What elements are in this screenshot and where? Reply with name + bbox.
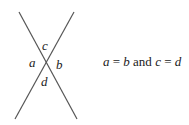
angle-label-d: d — [41, 74, 48, 89]
angle-label-c: c — [42, 38, 48, 53]
eq-equals-1: = — [110, 54, 124, 69]
eq-and: and — [130, 54, 155, 69]
eq-var-d: d — [175, 54, 182, 69]
eq-equals-2: = — [161, 54, 175, 69]
equation-text: a = b and c = d — [103, 54, 181, 70]
line-2 — [15, 12, 74, 119]
angle-label-a: a — [29, 55, 36, 70]
line-1 — [19, 12, 77, 119]
angle-label-b: b — [56, 57, 63, 72]
